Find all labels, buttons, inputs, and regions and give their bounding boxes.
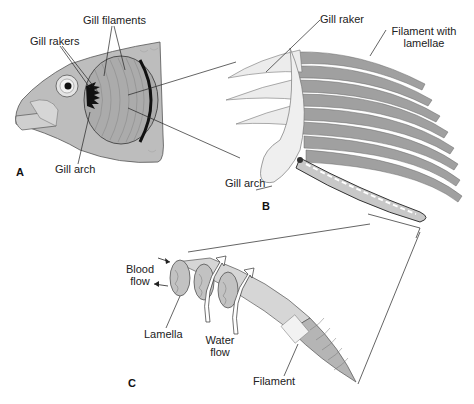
label-gill-raker: Gill raker <box>320 13 364 25</box>
panel-letter-c: C <box>128 377 136 389</box>
label-water-flow: Water flow <box>200 334 240 358</box>
label-filament-with-lamellae-line2: lamellae <box>404 37 445 49</box>
label-filament-with-lamellae-line1: Filament with <box>392 25 457 37</box>
label-blood-flow: Blood flow <box>122 263 158 287</box>
label-filament: Filament <box>253 375 295 387</box>
label-filament-with-lamellae: Filament with lamellae <box>384 25 464 49</box>
label-lamella: Lamella <box>144 328 183 340</box>
label-water-flow-line2: flow <box>210 346 230 358</box>
panel-letter-b: B <box>262 200 270 212</box>
label-gill-filaments: Gill filaments <box>83 14 146 26</box>
gill-arch-illustration <box>226 48 462 222</box>
label-gill-arch-a: Gill arch <box>55 163 95 175</box>
gill-anatomy-figure: Gill filaments Gill rakers Gill arch A G… <box>0 0 474 404</box>
label-water-flow-line1: Water <box>206 334 235 346</box>
label-blood-flow-line1: Blood <box>126 263 154 275</box>
label-blood-flow-line2: flow <box>130 275 150 287</box>
label-gill-arch-b: Gill arch <box>225 177 265 189</box>
filament-illustration <box>154 256 356 382</box>
fish-head-illustration <box>16 42 164 163</box>
panel-letter-a: A <box>16 166 24 178</box>
label-gill-rakers: Gill rakers <box>30 35 80 47</box>
